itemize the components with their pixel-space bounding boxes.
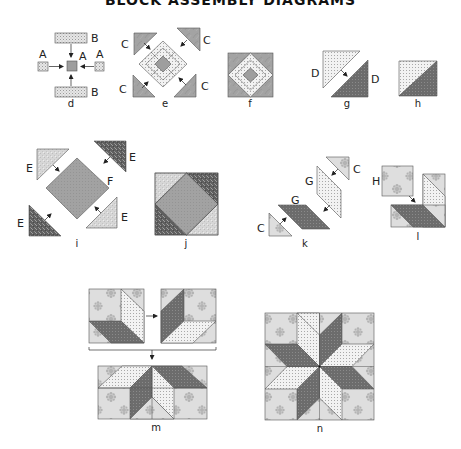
arrow-icon	[45, 214, 51, 220]
label-c-top: C	[353, 163, 361, 176]
diamond-g-upper	[317, 166, 341, 218]
diagram-n: n	[265, 313, 374, 434]
center-square	[67, 61, 77, 71]
square-h	[382, 166, 413, 196]
label-h: H	[372, 175, 380, 188]
caption-m: m	[151, 422, 161, 433]
diagram-l: H l	[372, 166, 445, 242]
diagram-m: m	[89, 289, 216, 433]
caption-e: e	[162, 98, 168, 109]
diamond-g-lower	[278, 205, 330, 229]
arrow-icon	[341, 70, 347, 76]
caption-d: d	[68, 98, 74, 109]
label-b-bottom: B	[91, 86, 99, 99]
caption-i: i	[76, 238, 79, 249]
arrow-icon	[409, 196, 415, 202]
arrow-icon	[95, 207, 101, 213]
arrow-icon	[144, 43, 150, 49]
piece-a-left	[38, 62, 48, 71]
diagram-f: f	[228, 53, 273, 109]
diagram-d: B A A A B d	[38, 32, 104, 109]
center-diamond	[139, 41, 187, 87]
label-g-upper: G	[305, 175, 314, 188]
label-a-right: A	[96, 48, 104, 61]
arrow-icon	[181, 40, 187, 46]
caption-k: k	[302, 238, 308, 249]
label-d-bottom: D	[371, 73, 379, 86]
triangle-e-bl	[29, 205, 61, 236]
label-a-center: A	[79, 50, 87, 63]
label-f: F	[107, 175, 113, 188]
triangle-c-bottom	[269, 213, 292, 236]
arrow-icon	[53, 165, 59, 171]
label-e-tl: E	[26, 162, 33, 175]
unit-left	[89, 289, 144, 343]
triangle-c-br	[174, 74, 196, 97]
unit-right	[161, 289, 216, 343]
arrow-icon	[324, 205, 330, 211]
label-c-tr: C	[203, 34, 211, 47]
caption-h: h	[415, 98, 421, 109]
diagram-h: h	[399, 61, 437, 109]
label-c-tl: C	[121, 38, 129, 51]
diagram-e: C C C C e	[119, 28, 211, 109]
triangle-c-tr	[177, 28, 200, 51]
triangle-e-tr	[94, 141, 126, 172]
caption-f: f	[248, 98, 252, 109]
arrow-icon	[104, 157, 110, 163]
diagram-j: j	[155, 173, 218, 249]
arrow-icon	[179, 78, 186, 85]
assembly-diagrams-canvas: B A A A B d C C C	[0, 0, 461, 449]
label-d-top: D	[311, 67, 319, 80]
caption-g: g	[344, 98, 350, 109]
diagram-g: D D g	[311, 51, 379, 109]
piece-b-bottom	[55, 87, 87, 97]
label-c-bottom: C	[257, 222, 265, 235]
label-e-bl: E	[17, 217, 24, 230]
caption-j: j	[184, 238, 188, 249]
piece-a-right	[95, 62, 104, 71]
diagram-k: C G G C k	[257, 157, 361, 249]
triangle-c-top	[326, 157, 349, 180]
label-b-top: B	[91, 32, 99, 45]
label-c-br: C	[201, 80, 209, 93]
label-c-bl: C	[119, 83, 127, 96]
label-e-tr: E	[129, 151, 136, 164]
diagram-i: E E F E E i	[17, 141, 136, 249]
combined-half	[98, 366, 207, 419]
bracket	[89, 347, 216, 350]
label-e-br: E	[121, 211, 128, 224]
label-a-left: A	[39, 48, 47, 61]
piece-b-top	[55, 33, 87, 43]
arrow-icon	[332, 169, 338, 175]
arrow-icon	[280, 218, 286, 224]
caption-l: l	[417, 231, 420, 242]
caption-n: n	[317, 423, 323, 434]
